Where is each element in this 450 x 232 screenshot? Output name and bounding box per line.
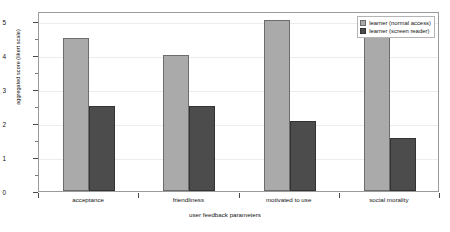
x-tick-mark [239,193,240,198]
y-tick-label: 2 [0,121,6,128]
y-tick-label: 1 [0,155,6,162]
x-category-label: motivated to use [266,196,311,203]
x-category-label: acceptance [72,196,104,203]
x-tick-mark [439,193,440,198]
x-category-label: friendliness [173,196,204,203]
legend: learner (normal access) learner (screen … [357,16,435,38]
bar [63,38,89,191]
bar [264,20,290,192]
legend-item-screen-reader[interactable]: learner (screen reader) [360,27,431,35]
y-tick-label: 4 [0,53,6,60]
bar [89,106,115,191]
legend-item-normal-access[interactable]: learner (normal access) [360,19,431,27]
x-tick-mark [138,193,139,198]
x-category-label: social morality [369,196,408,203]
y-axis-title: aggregated score (likert scale) [15,0,21,137]
legend-swatch-screen-reader [360,28,366,34]
y-tick-label: 5 [0,19,6,26]
legend-swatch-normal-access [360,20,366,26]
y-tick-label: 3 [0,87,6,94]
bar [364,36,390,191]
y-tick-label: 0 [0,189,6,196]
legend-label-normal-access: learner (normal access) [369,19,431,27]
bar [290,121,316,191]
x-tick-mark [38,193,39,198]
plot-area: learner (normal access) learner (screen … [38,12,439,192]
bar [163,55,189,191]
x-tick-mark [339,193,340,198]
bar [189,106,215,191]
bar-chart-figure: aggregated score (likert scale) 012345 l… [0,0,450,232]
x-axis-title: user feedback parameters [0,211,450,218]
bar [390,138,416,191]
legend-label-screen-reader: learner (screen reader) [369,27,429,35]
